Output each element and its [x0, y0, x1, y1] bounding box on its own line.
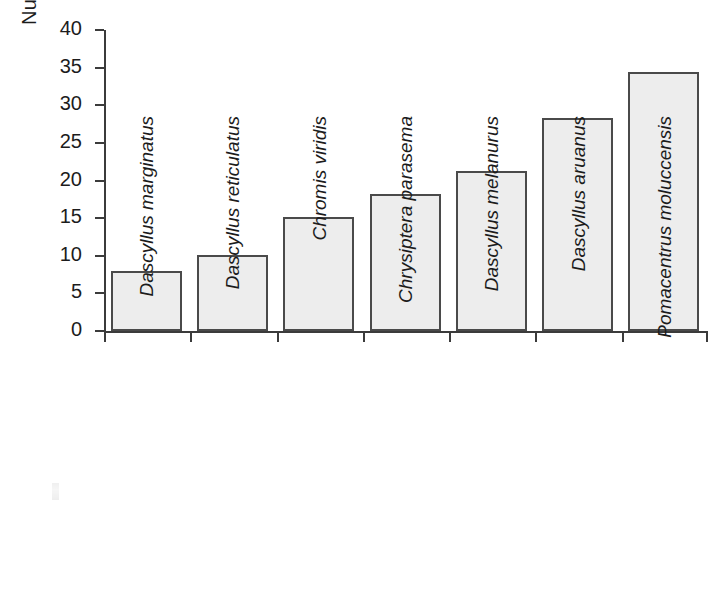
category-label: Chromis viridis — [307, 116, 333, 376]
bar-chart-figure: Number of host coral species 05101520253… — [0, 0, 722, 611]
y-tick-15: 15 — [95, 217, 104, 219]
y-tick-label-15: 15 — [60, 205, 82, 227]
y-tick-label-0: 0 — [71, 318, 82, 340]
y-axis-title: Number of host coral species — [14, 0, 44, 54]
x-tick-end — [706, 332, 708, 342]
scan-artifact — [52, 483, 59, 500]
x-tick-3 — [363, 332, 365, 342]
category-label: Dascyllus aruanus — [566, 116, 592, 376]
category-label: Dascyllus marginatus — [134, 116, 160, 376]
category-label: Pomacentrus moluccensis — [652, 116, 678, 376]
y-tick-30: 30 — [95, 104, 104, 106]
y-tick-label-30: 30 — [60, 92, 82, 114]
y-tick-10: 10 — [95, 255, 104, 257]
y-tick-5: 5 — [95, 292, 104, 294]
x-tick-1 — [190, 332, 192, 342]
category-label: Dascyllus melanurus — [479, 116, 505, 376]
y-tick-35: 35 — [95, 67, 104, 69]
y-tick-40: 40 — [95, 29, 104, 31]
category-label: Chrysiptera parasema — [393, 116, 419, 376]
y-tick-label-40: 40 — [60, 17, 82, 39]
y-tick-label-35: 35 — [60, 55, 82, 77]
y-tick-0: 0 — [95, 330, 104, 332]
category-label: Dascyllus reticulatus — [220, 116, 246, 376]
y-tick-label-10: 10 — [60, 243, 82, 265]
x-tick-0 — [104, 332, 106, 342]
y-tick-label-20: 20 — [60, 168, 82, 190]
x-tick-6 — [622, 332, 624, 342]
x-tick-4 — [449, 332, 451, 342]
y-tick-25: 25 — [95, 142, 104, 144]
x-tick-5 — [535, 332, 537, 342]
y-axis-line — [104, 30, 106, 333]
y-tick-label-5: 5 — [71, 280, 82, 302]
y-tick-20: 20 — [95, 180, 104, 182]
x-tick-2 — [277, 332, 279, 342]
y-tick-label-25: 25 — [60, 130, 82, 152]
